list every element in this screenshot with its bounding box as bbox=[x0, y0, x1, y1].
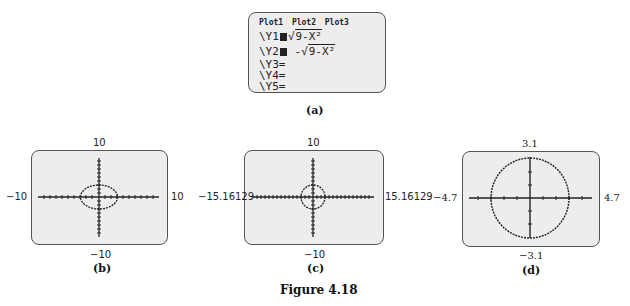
xmax-label-d: 4.7 bbox=[604, 192, 620, 203]
caption-d: (d) bbox=[522, 264, 540, 277]
ymax-label-d: 3.1 bbox=[522, 138, 538, 149]
figure-title: Figure 4.18 bbox=[280, 283, 358, 297]
xmin-label-d: −4.7 bbox=[433, 192, 457, 203]
ymin-label-d: −3.1 bbox=[519, 250, 543, 261]
